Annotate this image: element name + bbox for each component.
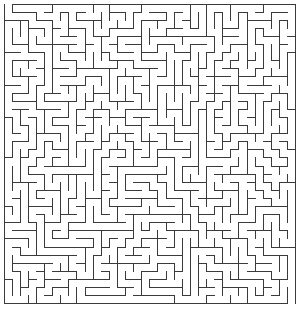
maze-walls xyxy=(4,4,296,304)
maze-board xyxy=(0,0,302,312)
maze-grid xyxy=(0,0,302,312)
